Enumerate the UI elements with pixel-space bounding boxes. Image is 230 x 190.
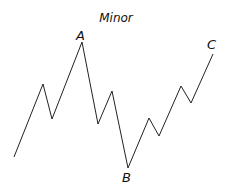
label-c: C — [207, 37, 216, 52]
label-b: B — [122, 170, 131, 185]
label-a: A — [76, 28, 85, 43]
wave-diagram — [0, 0, 230, 190]
wave-line — [14, 42, 213, 168]
